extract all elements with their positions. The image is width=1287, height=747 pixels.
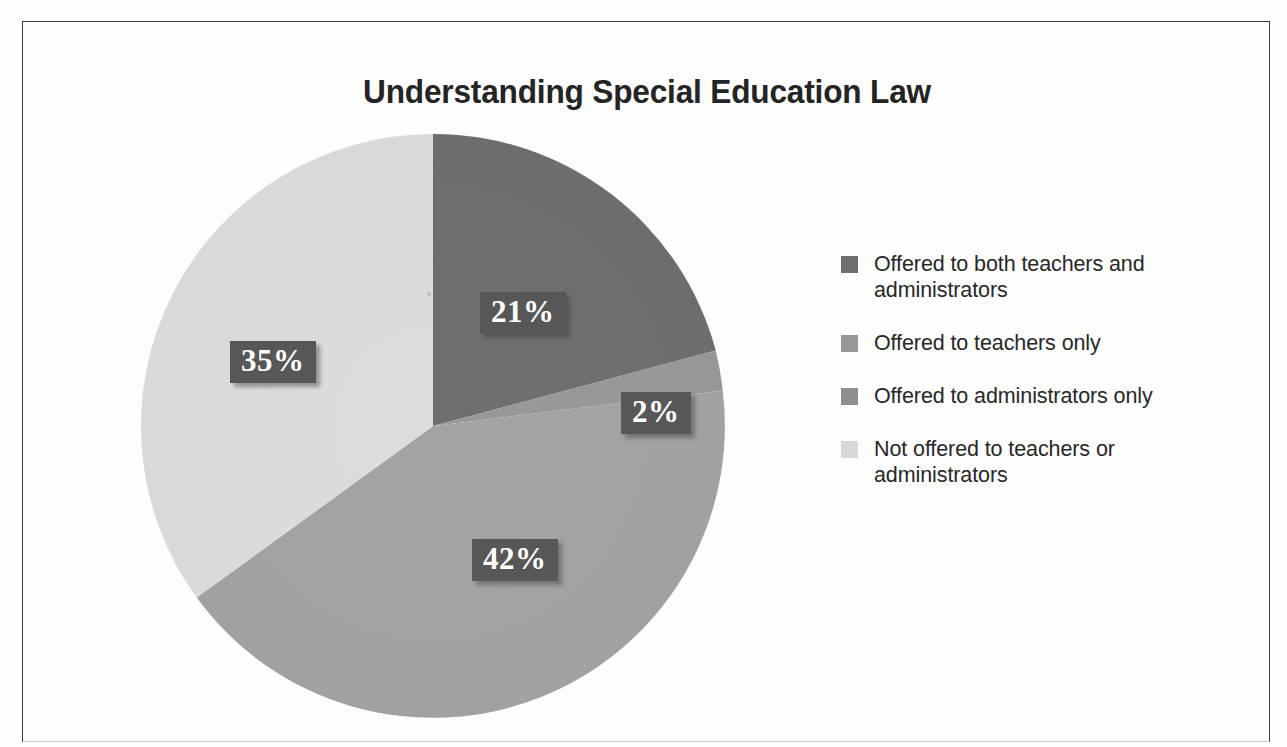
- legend-swatch-icon: [841, 256, 858, 273]
- legend-item-offered-teachers-only: Offered to teachers only: [841, 330, 1241, 356]
- legend-swatch-icon: [841, 388, 858, 405]
- legend-swatch-icon: [841, 335, 858, 352]
- pie-data-label-42: 42%: [472, 539, 558, 581]
- screenshot-root: Understanding Special Education Law Unde…: [0, 0, 1287, 747]
- pie-data-label-2: 2%: [621, 392, 691, 434]
- legend-label: Not offered to teachers or administrator…: [874, 436, 1204, 488]
- legend-item-not-offered: Not offered to teachers or administrator…: [841, 436, 1241, 488]
- chart-title: Understanding Special Education Law: [67, 72, 1228, 111]
- legend-label: Offered to administrators only: [874, 383, 1153, 409]
- pie-data-label-35: 35%: [230, 341, 316, 383]
- chart-frame: Understanding Special Education Law: [22, 21, 1270, 742]
- legend-swatch-icon: [841, 441, 858, 458]
- clipped-header-text: Understanding Special Education Law: [0, 0, 1287, 4]
- pie-data-label-21: 21%: [480, 292, 566, 334]
- legend-item-offered-administrators-only: Offered to administrators only: [841, 383, 1241, 409]
- legend-item-offered-both: Offered to both teachers and administrat…: [841, 251, 1241, 303]
- chart-legend: Offered to both teachers and administrat…: [841, 251, 1241, 515]
- legend-label: Offered to both teachers and administrat…: [874, 251, 1204, 303]
- scan-speck: [427, 292, 431, 296]
- legend-label: Offered to teachers only: [874, 330, 1101, 356]
